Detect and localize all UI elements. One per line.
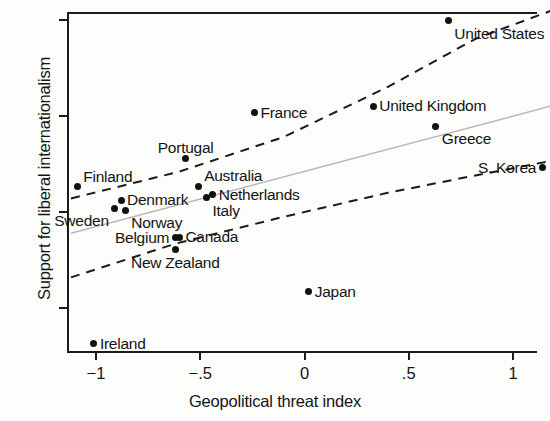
point-label: New Zealand bbox=[131, 254, 220, 272]
plot-area: −1012 −1−.50.51 United StatesFranceUnite… bbox=[67, 12, 537, 353]
y-tick-3 bbox=[59, 19, 67, 21]
point-label: France bbox=[260, 104, 307, 122]
point-label: Finland bbox=[83, 168, 132, 186]
x-tick-label-3: .5 bbox=[387, 364, 431, 383]
x-tick-label-2: 0 bbox=[283, 364, 327, 383]
y-axis-title: Support for liberal internationalism bbox=[35, 49, 54, 309]
data-point bbox=[539, 164, 546, 171]
trend-lines-layer bbox=[67, 12, 537, 353]
x-tick-label-0: −1 bbox=[74, 364, 118, 383]
x-tick-2 bbox=[304, 351, 306, 360]
data-point bbox=[370, 103, 377, 110]
x-axis-title: Geopolitical threat index bbox=[0, 392, 550, 411]
x-tick-3 bbox=[408, 351, 410, 360]
point-label: S. Korea bbox=[478, 159, 536, 177]
x-tick-4 bbox=[512, 351, 514, 360]
data-point bbox=[122, 207, 129, 214]
data-point bbox=[445, 17, 452, 24]
data-point bbox=[111, 205, 118, 212]
point-label: United States bbox=[454, 25, 544, 43]
point-label: United Kingdom bbox=[379, 97, 486, 115]
y-tick-2 bbox=[59, 115, 67, 117]
point-label: Italy bbox=[213, 202, 240, 220]
point-label: Canada bbox=[185, 228, 238, 246]
x-tick-0 bbox=[95, 351, 97, 360]
data-point bbox=[172, 246, 179, 253]
point-label: Belgium bbox=[115, 229, 169, 247]
data-point bbox=[203, 194, 210, 201]
data-point bbox=[176, 234, 183, 241]
point-label: Ireland bbox=[100, 335, 146, 353]
x-tick-label-4: 1 bbox=[491, 364, 535, 383]
x-tick-1 bbox=[199, 351, 201, 360]
scatter-chart: Support for liberal internationalism Geo… bbox=[0, 0, 550, 421]
x-tick-label-1: −.5 bbox=[178, 364, 222, 383]
point-label: Greece bbox=[442, 130, 491, 148]
point-label: Australia bbox=[204, 167, 262, 185]
data-point bbox=[195, 183, 202, 190]
point-label: Japan bbox=[315, 283, 356, 301]
point-label: Sweden bbox=[54, 212, 109, 230]
y-tick-0 bbox=[59, 307, 67, 309]
point-label: Portugal bbox=[158, 139, 214, 157]
point-label: Denmark bbox=[127, 191, 188, 209]
data-point bbox=[118, 197, 125, 204]
